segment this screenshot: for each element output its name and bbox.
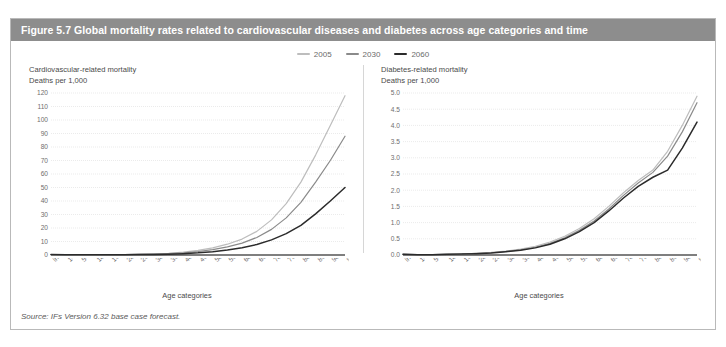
y-axis-tick-label: 2.0 xyxy=(391,187,400,194)
x-axis-tick-label: 90-94 xyxy=(330,258,347,263)
y-axis-tick-label: 1.0 xyxy=(391,219,400,226)
y-axis-tick-label: 60 xyxy=(41,170,49,177)
legend-label: 2060 xyxy=(411,50,429,59)
x-axis-tick-label: 10-14 xyxy=(95,258,112,263)
x-axis-tick-label: 15-19 xyxy=(462,258,479,263)
panel-title: Cardiovascular-related mortality xyxy=(29,65,136,74)
x-axis-tick-label: 5-9 xyxy=(80,258,92,263)
chart-legend: 200520302060 xyxy=(11,46,715,62)
legend-swatch-icon xyxy=(346,53,359,55)
y-axis-tick-label: 5.0 xyxy=(391,89,400,96)
panel-divider xyxy=(363,65,364,253)
y-axis-tick-label: 0.5 xyxy=(391,235,400,242)
panel-title: Diabetes-related mortality xyxy=(381,65,468,74)
x-axis-tick-label: 1-4 xyxy=(418,258,430,263)
x-axis-tick-label: 65-69 xyxy=(609,258,626,263)
legend-swatch-icon xyxy=(394,53,407,55)
plot-svg: 0.00.51.01.52.02.53.03.54.04.55.0 xyxy=(381,89,701,257)
x-axis-title: Age categories xyxy=(11,291,363,300)
x-axis-tick-label: 45-49 xyxy=(550,258,567,263)
legend-item-2060: 2060 xyxy=(394,50,429,59)
x-axis-title: Age categories xyxy=(363,291,715,300)
x-axis-tick-label: 10-14 xyxy=(447,258,464,263)
figure-header-bar: Figure 5.7 Global mortality rates relate… xyxy=(11,19,715,41)
y-axis-tick-label: 80 xyxy=(41,143,49,150)
x-axis-tick-label: 95-99 xyxy=(345,258,349,263)
legend-item-2005: 2005 xyxy=(297,50,332,59)
legend-label: 2005 xyxy=(314,50,332,59)
x-axis-tick-label: 60-64 xyxy=(242,258,259,263)
y-axis-tick-label: 120 xyxy=(37,89,48,96)
y-axis-tick-label: 4.5 xyxy=(391,106,400,113)
x-axis-tick-label: 5-9 xyxy=(432,258,444,263)
panel-units-label: Deaths per 1,000 xyxy=(29,76,87,85)
y-axis-tick-label: 90 xyxy=(41,130,49,137)
series-line-2005 xyxy=(403,96,697,254)
x-axis-tick-label: 75-79 xyxy=(638,258,655,263)
legend-item-2030: 2030 xyxy=(346,50,381,59)
y-axis-tick-label: 2.5 xyxy=(391,170,400,177)
y-axis-tick-label: 4.0 xyxy=(391,122,400,129)
plot-svg: 0102030405060708090100110120 xyxy=(29,89,349,257)
source-note: Source: IFs Version 6.32 base case forec… xyxy=(21,312,180,321)
x-axis-tick-label: 40-44 xyxy=(183,258,200,263)
x-axis-tick-label: 60-64 xyxy=(594,258,611,263)
x-axis-tick-label: 95-99 xyxy=(697,258,701,263)
y-axis-tick-label: 20 xyxy=(41,224,49,231)
x-axis-tick-label: 55-59 xyxy=(579,258,596,263)
x-axis-tick-label: 1-4 xyxy=(66,258,78,263)
x-axis-tick-label: 90-94 xyxy=(682,258,699,263)
x-axis-tick-label: 30-34 xyxy=(506,258,523,263)
y-axis-tick-label: 50 xyxy=(41,184,49,191)
x-axis-tick-label: 25-29 xyxy=(139,258,156,263)
y-axis-tick-label: 110 xyxy=(37,103,48,110)
y-axis-tick-label: 3.0 xyxy=(391,154,400,161)
x-axis-tick-label: 15-19 xyxy=(110,258,127,263)
y-axis-tick-label: 3.5 xyxy=(391,138,400,145)
y-axis-tick-label: 40 xyxy=(41,197,49,204)
x-axis-tick-label: 55-59 xyxy=(227,258,244,263)
y-axis-tick-label: 100 xyxy=(37,116,48,123)
y-axis-tick-label: 1.5 xyxy=(391,203,400,210)
x-axis-tick-label: 80-84 xyxy=(653,258,670,263)
panel-units-label: Deaths per 1,000 xyxy=(381,76,439,85)
y-axis-tick-label: 30 xyxy=(41,211,49,218)
figure-frame: Figure 5.7 Global mortality rates relate… xyxy=(10,18,716,330)
plot-area: 0.00.51.01.52.02.53.03.54.04.55.0 xyxy=(381,89,701,257)
x-axis-tick-label: 80-84 xyxy=(301,258,318,263)
series-line-2060 xyxy=(403,122,697,255)
series-line-2060 xyxy=(51,188,345,255)
x-axis-tick-label: 75-79 xyxy=(286,258,303,263)
plot-area: 0102030405060708090100110120 xyxy=(29,89,349,257)
series-line-2005 xyxy=(51,96,345,255)
series-line-2030 xyxy=(51,136,345,255)
figure-container: Figure 5.7 Global mortality rates relate… xyxy=(0,0,726,347)
x-axis-tick-label: 65-69 xyxy=(257,258,274,263)
chart-panel-cardiovascular: Cardiovascular-related mortalityDeaths p… xyxy=(11,63,363,308)
y-axis-tick-label: 10 xyxy=(41,238,49,245)
x-axis-tick-label: 25-29 xyxy=(491,258,508,263)
x-axis-tick-label: 30-34 xyxy=(154,258,171,263)
chart-panel-diabetes: Diabetes-related mortalityDeaths per 1,0… xyxy=(363,63,715,308)
x-axis-tick-label: 40-44 xyxy=(535,258,552,263)
y-axis-tick-label: 70 xyxy=(41,157,49,164)
figure-title: Figure 5.7 Global mortality rates relate… xyxy=(11,24,588,36)
legend-label: 2030 xyxy=(363,50,381,59)
x-axis-tick-label: 45-49 xyxy=(198,258,215,263)
legend-swatch-icon xyxy=(297,53,310,55)
